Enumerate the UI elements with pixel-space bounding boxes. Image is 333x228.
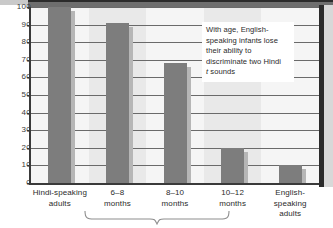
x-tick-label: 8–10months [146, 188, 204, 209]
y-tick-label: 40 [7, 108, 31, 117]
callout-line: their ability to [206, 46, 290, 57]
y-tick-label: 70 [7, 55, 31, 64]
x-tick-label-line: months [204, 199, 262, 210]
y-tick-label: 50 [7, 90, 31, 99]
bar [279, 165, 302, 183]
callout-line-italic: t sounds [206, 67, 290, 78]
x-tick-label-line: 6–8 [89, 188, 147, 199]
plot-right-margin [324, 5, 333, 187]
bar [106, 23, 129, 183]
bar-chart-figure: 0102030405060708090100 Hindi-speakingadu… [0, 0, 333, 228]
y-tick-label: 60 [7, 72, 31, 81]
x-tick-label: Hindi-speakingadults [31, 188, 89, 209]
y-tick-label: 10 [7, 160, 31, 169]
x-tick-label-line: months [146, 199, 204, 210]
bar [164, 63, 187, 183]
y-tick-label: 30 [7, 125, 31, 134]
x-tick-label-line: Hindi-speaking [31, 188, 89, 199]
category-bracket [84, 210, 230, 226]
x-tick-label-line: 8–10 [146, 188, 204, 199]
gridline [31, 7, 319, 8]
callout-line: discriminate two Hindi [206, 57, 290, 68]
x-tick-label: 10–12months [204, 188, 262, 209]
x-tick-label-line: months [89, 199, 147, 210]
y-tick-label: 100 [7, 2, 31, 11]
callout-line: speaking infants lose [206, 36, 290, 47]
bar [48, 7, 71, 183]
x-tick-label-line: adults [31, 199, 89, 210]
y-axis: 0102030405060708090100 [0, 0, 31, 228]
x-tick-label-line: 10–12 [204, 188, 262, 199]
x-tick-label: English-speakingadults [261, 188, 319, 220]
bar [221, 148, 244, 183]
callout-line: With age, English- [206, 25, 290, 36]
x-tick-label: 6–8months [89, 188, 147, 209]
x-tick-label-line: English-speaking [261, 188, 319, 209]
annotation-callout: With age, English- speaking infants lose… [202, 22, 294, 82]
callout-line-rest: sounds [208, 67, 235, 76]
y-tick-label: 20 [7, 143, 31, 152]
x-tick-label-line: adults [261, 209, 319, 220]
y-tick-label: 80 [7, 37, 31, 46]
y-tick-label: 0 [7, 178, 31, 187]
y-tick-label: 90 [7, 20, 31, 29]
